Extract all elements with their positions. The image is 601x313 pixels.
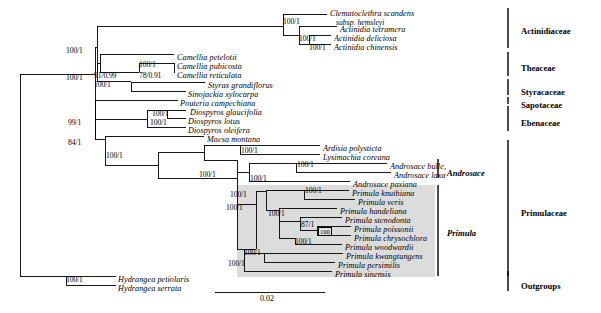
- support-value-s-ardisia-lysimachia: 100/1: [241, 147, 258, 155]
- support-value-s-primula-poissonii-grp: 87/1: [301, 221, 314, 229]
- support-value-s-primula-basal: 100/1: [244, 249, 261, 257]
- clade-label-styracaceae: Styracaceae: [521, 87, 565, 97]
- support-value-s-androsace-primula: 100/1: [230, 191, 247, 199]
- taxon-label-hydrangea_serrata: Hydrangea serrata: [118, 285, 181, 294]
- taxon-label-lysimachia_coreana: Lysimachia coreana: [323, 154, 390, 163]
- support-value-s-camellia-split: 91/0.99: [94, 72, 116, 80]
- taxon-label-actinidia_chinensis: Actinidia chinensis: [334, 44, 397, 53]
- tree-branches: [0, 0, 601, 313]
- support-value-s-primula-sinensis-grp: 100/1: [228, 260, 245, 268]
- support-value-s-actinidia: 100/1: [299, 35, 316, 43]
- support-value-s-primula-knuthiana-veris: 100/1: [305, 187, 322, 195]
- support-value-s-diospyros-stem: 100/1: [150, 119, 167, 127]
- support-value-s-maesa-sister: 100/1: [106, 152, 123, 160]
- support-value-s-actinidia-dc: 100/1: [309, 44, 326, 52]
- clade-label-outgroups: Outgroups: [521, 281, 560, 291]
- support-value-s-primula-sect: 100/1: [268, 210, 285, 218]
- support-value-s-actinidiaceae-crown: 100/1: [283, 18, 300, 26]
- support-value-s-outgroups: 100/1: [66, 276, 83, 284]
- phylogenetic-tree-figure: Clematoclethra scandenssubsp. hemsleyiAc…: [0, 0, 601, 313]
- taxon-label-maesa_montana: Maesa montana: [207, 136, 260, 145]
- support-value-s-theaceae-stem: 100/1: [66, 47, 83, 55]
- clade-label-primulaceae: Primulaceae: [521, 208, 567, 218]
- clade-label-sapotaceae: Sapotaceae: [521, 100, 562, 110]
- clade-label-primula: Primula: [447, 228, 476, 238]
- scale-bar-label: 0.02: [260, 294, 274, 303]
- support-value-s-diospyros-crown: 100/1: [152, 110, 169, 118]
- support-value-s-androsace-pair: 100/1: [297, 161, 314, 169]
- support-value-s-camellia-crown: 100/1: [139, 61, 156, 69]
- support-value-s-androsace-clade: 100/1: [250, 175, 267, 183]
- support-value-s-primula-crown: 100/1: [226, 204, 243, 212]
- support-value-s-primula-woodwardii: 100/1: [295, 238, 312, 246]
- support-value-s-ebenaceae-node: 99/1: [68, 119, 81, 127]
- support-value-s-styracaceae: 100/1: [94, 81, 111, 89]
- support-value-s-primulaceae-stem: 84/1: [68, 139, 81, 147]
- support-value-s-core-asterid: 100/1: [66, 74, 83, 82]
- clade-label-actinidiaceae: Actinidiaceae: [521, 26, 571, 36]
- support-value-s-primulaceae-core: 100/1: [199, 171, 216, 179]
- clade-label-androsace: Androsace: [447, 168, 485, 178]
- support-value-s-primula-boxed: 100: [318, 227, 332, 236]
- clade-label-theaceae: Theaceae: [521, 63, 555, 73]
- clade-label-ebenaceae: Ebenaceae: [521, 118, 560, 128]
- taxon-label-camellia_reticulata: Camellia reticulata: [177, 72, 242, 81]
- support-value-s-camellia-pair: 78/0.91: [139, 72, 161, 80]
- taxon-label-primula_sinensis: Primula sinensis: [335, 271, 391, 280]
